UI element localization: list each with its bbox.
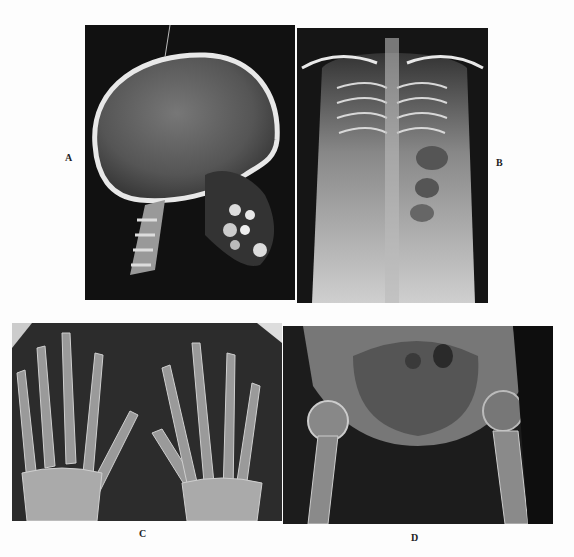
chest-abdomen-xray-image [297,28,488,303]
panel-label-c: C [139,528,147,539]
pelvis-xray-image [283,326,553,524]
hands-xray-image [12,323,282,521]
panel-label-b: B [496,157,503,168]
panel-d-pelvis-xray [283,326,553,524]
panel-b-chest-abdomen-xray [297,28,488,303]
panel-a-skull-xray [85,25,295,300]
panel-label-a: A [65,152,73,163]
panel-label-d: D [411,532,419,543]
skull-xray-image [85,25,295,300]
panel-c-hands-xray [12,323,282,521]
